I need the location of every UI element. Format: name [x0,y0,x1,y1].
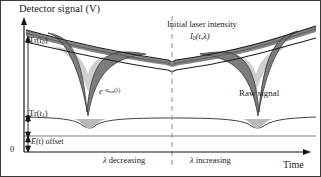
tr-t1-label: Tr(t1) [29,109,48,119]
decay-exponent-tail: (λ) [114,87,120,93]
initial-laser-intensity-label: Initial laser intensity [167,20,237,29]
tr-t0-close: ) [45,35,48,45]
lambda-increasing-label: λ increasing [190,156,231,165]
lambda-decreasing-symbol: λ [103,155,107,165]
decay-annotation: e−αmax(λ) [99,88,120,96]
laser-arguments: (t,λ) [196,31,210,41]
decay-exponent: −αmax(λ) [103,87,121,93]
offset-label: E(t) offset [31,138,64,146]
offset-text: (t) offset [36,137,64,146]
tr-t0-prefix: Tr( [29,35,40,45]
tr-t1-prefix: Tr( [29,108,40,118]
origin-label: 0 [10,145,14,154]
x-axis-title: Time [283,160,304,170]
y-axis-title: Detector signal (V) [19,4,100,15]
tr-t1-close: ) [45,108,48,118]
initial-laser-intensity-formula: I0(t,λ) [190,32,210,42]
tr-t0-label: Tr(t0) [29,36,48,46]
lambda-decreasing-text: decreasing [109,155,145,165]
raw-signal-label: Raw signal [239,89,279,98]
lambda-decreasing-label: λ decreasing [103,156,145,165]
detector-signal-figure: Detector signal (V) Tr(t0) Tr(t1) E(t) o… [0,0,321,177]
lambda-increasing-text: increasing [196,155,231,165]
lambda-increasing-symbol: λ [190,155,194,165]
